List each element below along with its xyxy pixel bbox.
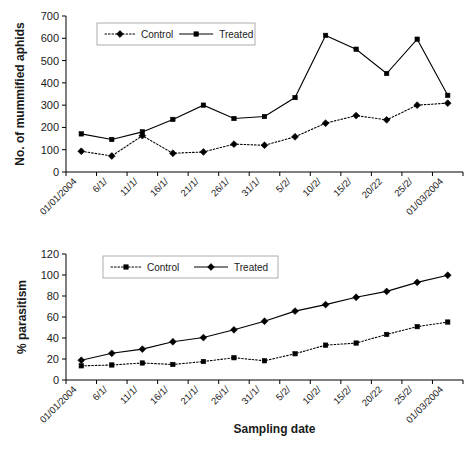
data-point-control — [262, 359, 266, 363]
data-point-control — [323, 343, 327, 347]
data-point-control — [232, 356, 236, 360]
x-tick-label: 31/1/ — [239, 383, 262, 406]
data-point-treated — [383, 288, 390, 295]
x-tick-label: 15/2/ — [331, 175, 354, 198]
data-point-treated — [384, 71, 388, 75]
chart-canvas-bottom: 02040608010012001/01/20046/1/11/1/16/1/2… — [0, 228, 475, 450]
data-point-treated — [353, 294, 360, 301]
y-tick-label: 40 — [47, 332, 59, 344]
data-point-control — [384, 332, 388, 336]
x-tick-label: 5/2/ — [273, 383, 292, 402]
x-tick-label: 26/1/ — [209, 175, 232, 198]
x-tick-label: 21/1/ — [178, 175, 201, 198]
data-point-treated — [262, 114, 266, 118]
y-axis-title: % parasitism — [15, 280, 29, 354]
data-point-control — [353, 112, 360, 119]
x-tick-label: 10/2/ — [300, 383, 323, 406]
data-point-control — [322, 120, 329, 127]
data-point-treated — [231, 326, 238, 333]
x-tick-label: 5/2/ — [273, 175, 292, 194]
series-line-treated — [81, 35, 447, 139]
x-tick-label: 15/2/ — [331, 383, 354, 406]
legend-label-treated: Treated — [234, 262, 268, 273]
data-point-control — [414, 102, 421, 109]
y-tick-label: 120 — [41, 248, 59, 260]
x-tick-label: 01/01/2004 — [37, 176, 78, 217]
y-tick-label: 700 — [41, 10, 59, 22]
x-tick-label: 6/1/ — [90, 383, 109, 402]
y-tick-label: 0 — [53, 374, 59, 386]
y-tick-label: 60 — [47, 311, 59, 323]
y-tick-label: 300 — [41, 99, 59, 111]
data-point-control — [110, 363, 114, 367]
chart-panel-mummified-aphids: 010020030040050060070001/01/20046/1/11/1… — [0, 0, 475, 228]
data-point-treated — [261, 318, 268, 325]
x-tick-label: 21/1/ — [178, 383, 201, 406]
data-point-control — [108, 153, 115, 160]
x-tick-label: 10/2/ — [300, 175, 323, 198]
x-tick-label: 26/1/ — [209, 383, 232, 406]
data-point-control — [415, 324, 419, 328]
x-tick-label: 11/1/ — [118, 175, 140, 197]
y-tick-label: 500 — [41, 55, 59, 67]
data-point-control — [446, 320, 450, 324]
legend-label-treated: Treated — [219, 29, 253, 40]
legend-marker-treated — [194, 32, 198, 36]
y-tick-label: 80 — [47, 290, 59, 302]
x-tick-label: 01/01/2004 — [37, 384, 78, 425]
data-point-treated — [354, 47, 358, 51]
two-panel-line-chart-figure: 010020030040050060070001/01/20046/1/11/1… — [0, 0, 475, 450]
data-point-treated — [292, 308, 299, 315]
x-tick-label: 20/22 — [359, 384, 384, 409]
x-tick-label: 25/2/ — [392, 175, 415, 198]
data-point-control — [169, 150, 176, 157]
data-point-treated — [200, 334, 207, 341]
data-point-control — [293, 352, 297, 356]
data-point-treated — [79, 132, 83, 136]
data-point-treated — [444, 272, 451, 279]
data-point-control — [354, 341, 358, 345]
data-point-control — [201, 359, 205, 363]
y-tick-label: 400 — [41, 77, 59, 89]
legend-label-control: Control — [147, 262, 179, 273]
data-point-control — [140, 361, 144, 365]
x-tick-label: 16/1/ — [148, 175, 171, 198]
x-tick-label: 6/1/ — [90, 175, 109, 194]
data-point-treated — [415, 37, 419, 41]
chart-legend: ControlTreated — [97, 23, 255, 45]
data-point-control — [292, 133, 299, 140]
chart-legend: ControlTreated — [103, 256, 278, 278]
data-point-treated — [446, 93, 450, 97]
x-tick-label: 20/22 — [359, 176, 384, 201]
data-point-control — [231, 141, 238, 148]
data-point-treated — [140, 130, 144, 134]
data-point-control — [78, 148, 85, 155]
data-point-treated — [293, 95, 297, 99]
data-point-treated — [169, 338, 176, 345]
x-tick-label: 16/1/ — [148, 383, 171, 406]
y-tick-label: 0 — [53, 166, 59, 178]
data-point-treated — [322, 301, 329, 308]
y-tick-label: 20 — [47, 353, 59, 365]
chart-panel-parasitism: 02040608010012001/01/20046/1/11/1/16/1/2… — [0, 228, 475, 450]
y-axis-title: No. of mummified aphids — [13, 22, 27, 166]
y-tick-label: 100 — [41, 269, 59, 281]
data-point-treated — [171, 117, 175, 121]
y-tick-label: 200 — [41, 121, 59, 133]
data-point-treated — [108, 350, 115, 357]
y-tick-label: 600 — [41, 32, 59, 44]
data-point-control — [171, 362, 175, 366]
x-tick-label: 25/2/ — [392, 383, 415, 406]
chart-canvas-top: 010020030040050060070001/01/20046/1/11/1… — [0, 0, 475, 228]
data-point-control — [200, 149, 207, 156]
data-point-treated — [201, 103, 205, 107]
legend-label-control: Control — [141, 29, 173, 40]
data-point-treated — [232, 116, 236, 120]
data-point-control — [444, 100, 451, 107]
x-axis-title: Sampling date — [233, 422, 315, 436]
data-point-control — [79, 364, 83, 368]
data-point-control — [383, 116, 390, 123]
data-point-control — [261, 142, 268, 149]
data-point-treated — [78, 357, 85, 364]
data-point-treated — [139, 346, 146, 353]
